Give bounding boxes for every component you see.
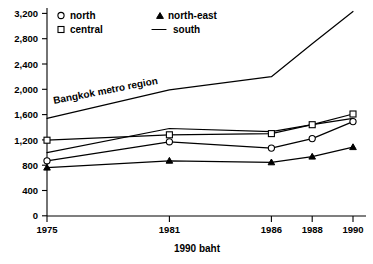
y-tick-label: 0 <box>33 210 38 221</box>
y-tick-label: 1,600 <box>14 109 38 120</box>
series-south <box>47 118 353 152</box>
y-tick-label: 1,200 <box>14 135 38 146</box>
series-line-north <box>47 122 353 161</box>
legend-label: central <box>70 24 103 35</box>
legend-label: south <box>173 24 200 35</box>
data-point-marker <box>44 137 50 143</box>
legend-item-north-east[interactable]: north-east <box>157 10 218 21</box>
x-tick-label: 1988 <box>302 224 323 235</box>
bangkok-metro-region-label: Bangkok metro region <box>52 75 158 106</box>
y-axis-ticks: 3,200 2,800 2,400 2,000 1,600 1,200 <box>14 8 47 221</box>
square-marker-icon <box>58 27 64 33</box>
data-point-marker <box>350 119 356 125</box>
y-tick-label: 800 <box>22 160 38 171</box>
chart-legend: north central north-east south <box>58 10 218 35</box>
y-tick-2800: 2,800 <box>14 33 47 44</box>
data-point-marker <box>309 122 315 128</box>
x-tick-label: 1986 <box>261 224 282 235</box>
data-point-marker <box>268 131 274 137</box>
triangle-marker-icon <box>157 13 164 19</box>
series-line-south <box>47 118 353 152</box>
y-tick-2400: 2,400 <box>14 59 47 70</box>
data-point-marker <box>44 158 50 164</box>
series-line-central <box>47 114 353 140</box>
x-axis-ticks: 1975 1981 1986 1988 1990 <box>36 216 363 235</box>
data-point-marker <box>166 132 172 138</box>
legend-item-central[interactable]: central <box>58 24 103 35</box>
x-tick-label: 1981 <box>159 224 181 235</box>
y-tick-2000: 2,000 <box>14 84 47 95</box>
y-tick-3200: 3,200 <box>14 8 47 19</box>
circle-marker-icon <box>58 12 64 18</box>
x-tick-1990: 1990 <box>342 216 363 235</box>
data-point-marker <box>166 139 172 145</box>
y-tick-label: 3,200 <box>14 8 38 19</box>
y-tick-1200: 1,200 <box>14 135 47 146</box>
x-tick-1986: 1986 <box>261 216 282 235</box>
legend-label: north-east <box>168 10 218 21</box>
y-tick-label: 400 <box>22 185 38 196</box>
data-point-marker <box>268 145 274 151</box>
data-point-marker <box>350 144 357 150</box>
x-tick-label: 1990 <box>342 224 363 235</box>
x-tick-1981: 1981 <box>159 216 181 235</box>
legend-item-north[interactable]: north <box>58 10 96 21</box>
legend-item-south[interactable]: south <box>152 24 200 35</box>
y-tick-800: 800 <box>22 160 47 171</box>
data-point-marker <box>309 136 315 142</box>
y-tick-label: 2,000 <box>14 84 38 95</box>
y-tick-0: 0 <box>33 210 47 221</box>
y-tick-1600: 1,600 <box>14 109 47 120</box>
data-point-marker <box>350 111 356 117</box>
series-line-north-east <box>47 147 353 168</box>
x-tick-1975: 1975 <box>36 216 58 235</box>
y-tick-400: 400 <box>22 185 47 196</box>
x-tick-1988: 1988 <box>302 216 323 235</box>
x-tick-label: 1975 <box>36 224 58 235</box>
legend-label: north <box>70 10 96 21</box>
y-tick-label: 2,400 <box>14 59 38 70</box>
series-north-east <box>44 144 357 170</box>
x-axis-title: 1990 baht <box>174 243 221 254</box>
chart-container: 3,200 2,800 2,400 2,000 1,600 1,200 <box>0 0 373 264</box>
y-tick-label: 2,800 <box>14 33 38 44</box>
line-chart-svg: 3,200 2,800 2,400 2,000 1,600 1,200 <box>0 0 373 264</box>
